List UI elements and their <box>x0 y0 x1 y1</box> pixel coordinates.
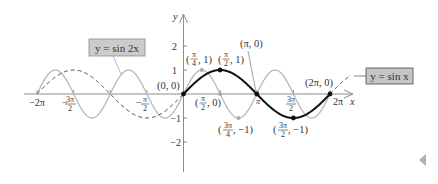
point-3pi2-m1 <box>291 116 296 121</box>
y-tick-label: 2 <box>172 41 177 52</box>
annotation-3pi4-m1: ( 3π 4 , −1) <box>218 121 253 139</box>
y-tick-label: −1 <box>170 113 181 124</box>
svg-text:4: 4 <box>226 130 230 139</box>
annotation-pi2-0: ( π 2 , 0) <box>195 94 222 112</box>
annotation-pi-0: (π, 0) <box>240 38 263 50</box>
svg-text:2: 2 <box>281 130 285 139</box>
svg-text:2: 2 <box>68 104 72 113</box>
point-pi-0 <box>254 92 259 97</box>
annotation-2pi-0: (2π, 0) <box>305 77 334 89</box>
svg-text:, 1): , 1) <box>230 54 245 66</box>
svg-text:(: ( <box>218 124 222 136</box>
x-tick-label: 2π <box>333 96 343 107</box>
svg-text:3π: 3π <box>287 95 295 104</box>
svg-text:2: 2 <box>143 104 147 113</box>
triangle-left-icon[interactable] <box>419 154 426 166</box>
svg-text:2: 2 <box>224 59 228 68</box>
svg-text:3π: 3π <box>66 95 74 104</box>
svg-text:, 0): , 0) <box>207 97 222 109</box>
svg-text:−: − <box>136 97 142 108</box>
svg-text:(: ( <box>273 124 277 136</box>
point-pi2-0 <box>218 92 222 96</box>
y-tick-label: −2 <box>170 137 181 148</box>
x-tick-label-mpi2: − π 2 <box>136 95 149 113</box>
svg-text:π: π <box>192 50 196 59</box>
legend-sinx-label: y = sin x <box>370 70 409 82</box>
y-tick-label: 1 <box>172 65 177 76</box>
svg-text:4: 4 <box>192 59 196 68</box>
legend-sin2x-label: y = sin 2x <box>95 42 139 54</box>
point-pi4-1 <box>200 68 204 72</box>
x-tick-label-m3pi2: − 3π 2 <box>62 95 76 113</box>
point-pi2-1 <box>218 68 223 73</box>
svg-text:(: ( <box>195 97 199 109</box>
legend-sin2x: y = sin 2x <box>89 39 145 74</box>
annotation-origin: (0, 0) <box>157 80 180 92</box>
svg-text:(: ( <box>218 54 222 66</box>
point-2pi-0 <box>328 92 333 97</box>
svg-text:, 1): , 1) <box>198 54 213 66</box>
annotation-pi2-1: ( π 2 , 1) <box>218 50 245 68</box>
svg-text:π: π <box>201 94 205 103</box>
x-tick-label: −2π <box>29 97 45 108</box>
svg-text:, −1): , −1) <box>288 124 308 136</box>
y-axis-label: y <box>172 11 178 22</box>
x-tick-label-3pi2: 3π 2 <box>286 95 296 113</box>
svg-text:(: ( <box>186 54 190 66</box>
svg-text:3π: 3π <box>279 121 287 130</box>
svg-text:2: 2 <box>201 103 205 112</box>
svg-text:2: 2 <box>289 104 293 113</box>
point-3pi4-m1 <box>236 116 240 120</box>
svg-text:3π: 3π <box>224 121 232 130</box>
sine-graph: 2 1 −1 −2 y x −2π − 3π 2 − π 2 π 3π 2 2π… <box>0 0 438 184</box>
svg-text:, −1): , −1) <box>233 124 253 136</box>
annotation-pi4-1: ( π 4 , 1) <box>186 50 213 68</box>
svg-text:π: π <box>143 95 147 104</box>
legend-sinx: y = sin x <box>354 68 413 84</box>
annotation-3pi2-m1: ( 3π 2 , −1) <box>273 121 308 139</box>
x-axis-label: x <box>349 96 355 107</box>
svg-text:π: π <box>224 50 228 59</box>
point-origin <box>181 92 186 97</box>
